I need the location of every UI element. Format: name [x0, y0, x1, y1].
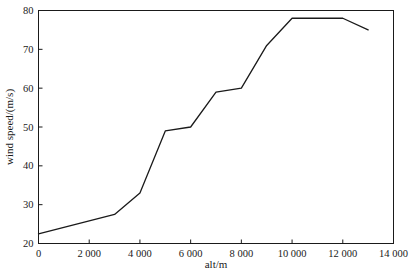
chart-canvas: 02 0004 0006 0008 00010 00012 00014 0002…	[0, 0, 414, 279]
x-axis-tick-label: 0	[36, 248, 41, 259]
x-axis-tick-label: 4 000	[128, 248, 152, 259]
y-axis-tick-label: 30	[23, 199, 34, 210]
x-axis-tick-label: 12 000	[328, 248, 357, 259]
x-axis-tick-label: 14 000	[379, 248, 408, 259]
x-axis-title: alt/m	[205, 258, 228, 270]
y-axis-tick-label: 50	[23, 122, 34, 133]
x-axis-tick-label: 10 000	[278, 248, 307, 259]
y-axis-tick-label: 70	[23, 44, 34, 55]
y-axis-tick-label: 60	[23, 83, 34, 94]
y-axis-title: wind speed/(m/s)	[3, 89, 16, 165]
y-axis-tick-label: 20	[23, 238, 34, 249]
x-axis-tick-label: 8 000	[230, 248, 254, 259]
wind-speed-altitude-chart: 02 0004 0006 0008 00010 00012 00014 0002…	[0, 0, 414, 279]
x-axis-tick-label: 2 000	[77, 248, 101, 259]
plot-frame	[39, 11, 394, 244]
y-axis-tick-label: 80	[23, 5, 34, 16]
y-axis-tick-label: 40	[23, 160, 34, 171]
x-axis-tick-label: 6 000	[179, 248, 203, 259]
